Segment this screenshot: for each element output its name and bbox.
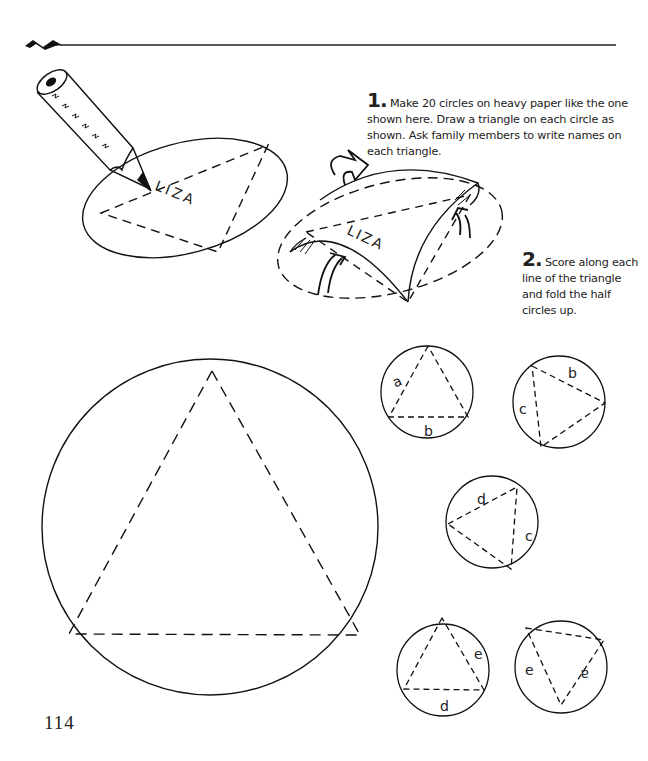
edge-label: e	[474, 646, 483, 662]
pencil-icon	[33, 65, 151, 191]
edge-label: d	[477, 491, 486, 507]
step-2-instruction: 2. Score along each line of the triangle…	[522, 251, 642, 319]
step-1-number: 1.	[367, 88, 387, 112]
edge-label: b	[424, 423, 433, 439]
step-2-number: 2.	[522, 247, 542, 271]
page-number: 114	[44, 712, 75, 734]
edge-label: b	[568, 365, 577, 381]
step-1-instruction: 1. Make 20 circles on heavy paper like t…	[367, 92, 639, 160]
edge-label: c	[525, 528, 533, 544]
small-circle-3	[446, 476, 538, 569]
folded-circle-illustration	[265, 150, 515, 319]
edge-label: a	[580, 667, 589, 683]
edge-label: a	[390, 372, 405, 390]
edge-label: e	[525, 662, 534, 678]
small-circle-2	[513, 356, 605, 448]
step-1-text: Make 20 circles on heavy paper like the …	[367, 97, 628, 158]
template-circle	[42, 359, 378, 695]
edge-label: c	[519, 401, 527, 417]
header-rule	[25, 40, 616, 50]
edge-label: d	[440, 698, 449, 714]
